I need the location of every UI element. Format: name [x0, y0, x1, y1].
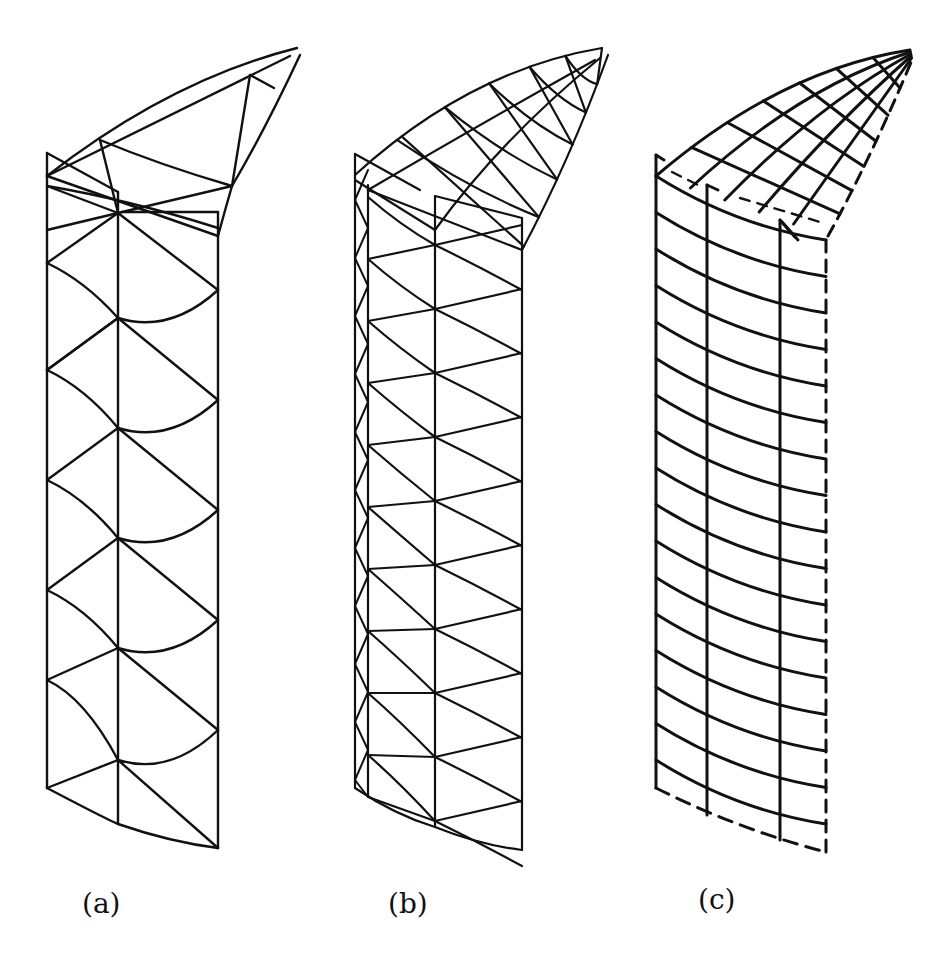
- mesh-panel-a-triangular-coarse: [47, 48, 300, 848]
- mesh-figure: [0, 0, 950, 961]
- mesh-panel-c-quadrilateral: [656, 50, 912, 852]
- panel-label-c: (c): [698, 886, 736, 914]
- mesh-panel-b-triangular-fine: [355, 48, 608, 866]
- panel-label-b: (b): [388, 890, 428, 918]
- panel-label-a: (a): [82, 890, 121, 918]
